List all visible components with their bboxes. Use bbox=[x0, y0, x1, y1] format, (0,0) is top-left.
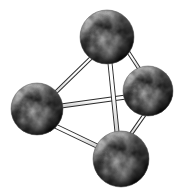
atom-sphere-right bbox=[123, 66, 173, 116]
atom-sphere-top bbox=[80, 10, 134, 64]
molecule-figure bbox=[0, 0, 177, 191]
molecule-diagram bbox=[0, 0, 177, 191]
atom-sphere-left bbox=[11, 83, 63, 135]
atom-sphere-bottom bbox=[93, 131, 149, 187]
